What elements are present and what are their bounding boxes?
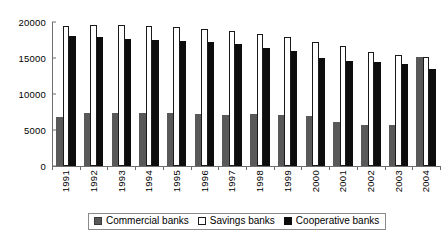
legend-item-commercial: Commercial banks (94, 216, 189, 226)
x-axis-year-label: 1998 (255, 170, 265, 192)
x-axis-year-label: 1994 (144, 170, 154, 192)
bar-group (385, 22, 413, 166)
bar-cooperative-1991 (69, 36, 76, 166)
x-axis-year-label: 1992 (89, 170, 99, 192)
bar-cooperative-2001 (346, 61, 353, 166)
x-axis-year-label: 2004 (421, 170, 431, 192)
legend-swatch-commercial (94, 217, 102, 225)
plot-area (52, 22, 440, 166)
legend-swatch-savings (198, 217, 206, 225)
x-label-cell: 2003 (385, 170, 413, 210)
bar-cooperative-1992 (97, 37, 104, 166)
bar-cooperative-1999 (291, 51, 298, 166)
x-label-cell: 1998 (246, 170, 274, 210)
legend-item-cooperative: Cooperative banks (284, 216, 379, 226)
bar-chart: 05000100001500020000 1991199219931994199… (0, 0, 446, 244)
x-label-cell: 1996 (191, 170, 219, 210)
bar-group (107, 22, 135, 166)
legend-swatch-cooperative (284, 217, 292, 225)
bar-group (274, 22, 302, 166)
x-tick-mark (440, 166, 441, 170)
bar-group (191, 22, 219, 166)
bar-group (163, 22, 191, 166)
bar-cooperative-1996 (208, 42, 215, 166)
bar-group (329, 22, 357, 166)
x-label-cell: 2000 (301, 170, 329, 210)
x-axis-year-label: 1999 (283, 170, 293, 192)
x-axis-year-label: 1996 (200, 170, 210, 192)
legend-item-savings: Savings banks (198, 216, 275, 226)
bar-group (80, 22, 108, 166)
x-axis-year-label: 1995 (172, 170, 182, 192)
x-label-cell: 1997 (218, 170, 246, 210)
legend-label: Savings banks (210, 216, 275, 226)
bar-group (412, 22, 440, 166)
x-axis-year-label: 2000 (311, 170, 321, 192)
x-label-cell: 1995 (163, 170, 191, 210)
bar-cooperative-1998 (263, 48, 270, 166)
bar-group (52, 22, 80, 166)
bar-cooperative-1995 (180, 41, 187, 166)
x-axis-year-label: 1991 (61, 170, 71, 192)
bar-cooperative-2000 (319, 58, 326, 166)
bar-cooperative-1994 (152, 40, 159, 166)
y-tick-label: 5000 (0, 125, 46, 136)
x-axis-year-label: 2001 (338, 170, 348, 192)
bar-cooperative-2003 (402, 64, 409, 166)
x-axis-year-label: 1993 (117, 170, 127, 192)
x-axis-labels: 1991199219931994199519961997199819992000… (52, 170, 440, 210)
bar-cooperative-1997 (235, 44, 242, 166)
x-label-cell: 2004 (412, 170, 440, 210)
x-label-cell: 1993 (107, 170, 135, 210)
x-label-cell: 2001 (329, 170, 357, 210)
legend-label: Commercial banks (106, 216, 189, 226)
x-axis-year-label: 2003 (394, 170, 404, 192)
y-tick-label: 0 (0, 161, 46, 172)
bar-group (357, 22, 385, 166)
x-label-cell: 1992 (80, 170, 108, 210)
bar-cooperative-1993 (125, 39, 132, 166)
y-tick-label: 10000 (0, 89, 46, 100)
legend-label: Cooperative banks (296, 216, 379, 226)
x-label-cell: 2002 (357, 170, 385, 210)
y-tick-label: 20000 (0, 17, 46, 28)
bar-group (135, 22, 163, 166)
x-axis-year-label: 2002 (366, 170, 376, 192)
chart-legend: Commercial banksSavings banksCooperative… (88, 213, 386, 230)
x-label-cell: 1999 (274, 170, 302, 210)
x-axis-year-label: 1997 (227, 170, 237, 192)
bar-cooperative-2002 (374, 62, 381, 166)
bar-group (301, 22, 329, 166)
bar-cooperative-2004 (429, 69, 436, 166)
x-label-cell: 1994 (135, 170, 163, 210)
x-label-cell: 1991 (52, 170, 80, 210)
bar-group (246, 22, 274, 166)
bar-group (218, 22, 246, 166)
y-tick-label: 15000 (0, 53, 46, 64)
bar-groups (52, 22, 440, 166)
